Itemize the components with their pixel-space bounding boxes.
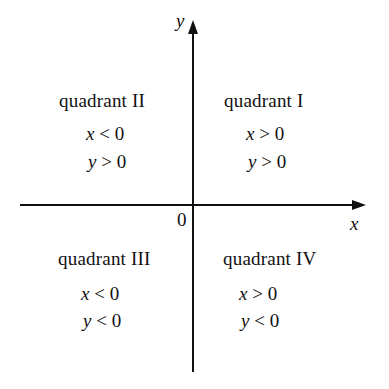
quadrant-i-y-condition: y > 0 — [248, 152, 286, 171]
y-axis-label: y — [176, 11, 184, 30]
condition-operator: > — [259, 123, 270, 144]
quadrant-iv-y-condition: y < 0 — [241, 311, 279, 330]
condition-value: 0 — [275, 123, 285, 144]
condition-variable: x — [86, 123, 94, 144]
condition-value: 0 — [110, 283, 120, 304]
condition-variable: y — [88, 151, 96, 172]
quadrant-ii-title: quadrant II — [59, 91, 145, 110]
condition-value: 0 — [270, 310, 280, 331]
condition-value: 0 — [115, 123, 125, 144]
y-axis-arrow-icon — [188, 20, 198, 34]
condition-value: 0 — [277, 151, 287, 172]
quadrant-i-title: quadrant I — [224, 91, 304, 110]
condition-value: 0 — [117, 151, 127, 172]
condition-variable: y — [241, 310, 249, 331]
condition-operator: < — [99, 123, 110, 144]
condition-variable: x — [246, 123, 254, 144]
condition-operator: < — [254, 310, 265, 331]
condition-operator: > — [101, 151, 112, 172]
condition-operator: < — [94, 283, 105, 304]
condition-value: 0 — [268, 283, 278, 304]
quadrant-iii-title: quadrant III — [58, 249, 151, 268]
condition-variable: x — [81, 283, 89, 304]
quadrant-ii-y-condition: y > 0 — [88, 152, 126, 171]
condition-operator: > — [252, 283, 263, 304]
x-axis-label: x — [350, 214, 358, 233]
origin-label: 0 — [177, 210, 187, 229]
quadrant-ii-x-condition: x < 0 — [86, 124, 124, 143]
coordinate-axes — [0, 0, 389, 389]
quadrant-iv-title: quadrant IV — [223, 249, 316, 268]
condition-operator: < — [96, 310, 107, 331]
quadrant-i-x-condition: x > 0 — [246, 124, 284, 143]
x-axis-arrow-icon — [352, 200, 366, 210]
condition-variable: y — [248, 151, 256, 172]
condition-value: 0 — [112, 310, 122, 331]
condition-variable: x — [239, 283, 247, 304]
quadrant-iii-y-condition: y < 0 — [83, 311, 121, 330]
quadrant-iii-x-condition: x < 0 — [81, 284, 119, 303]
condition-operator: > — [261, 151, 272, 172]
condition-variable: y — [83, 310, 91, 331]
quadrant-iv-x-condition: x > 0 — [239, 284, 277, 303]
